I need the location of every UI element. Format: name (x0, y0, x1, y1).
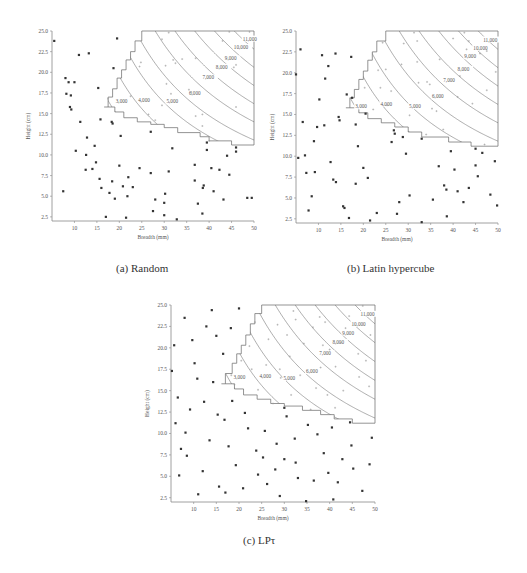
chart-c: 2.55.07.510.012.515.017.520.022.525.0101… (0, 0, 527, 573)
feasible-point (312, 326, 314, 328)
infeasible-point (294, 438, 296, 440)
infeasible-point (212, 381, 214, 383)
infeasible-point (368, 463, 370, 465)
infeasible-point (286, 415, 288, 417)
x-tick-label: 20 (236, 506, 242, 512)
y-tick-label: 17.5 (157, 366, 167, 372)
x-tick-label: 15 (214, 506, 220, 512)
contour-label: 3,000 (234, 374, 246, 380)
infeasible-point (257, 473, 259, 475)
infeasible-point (173, 344, 175, 346)
infeasible-point (247, 427, 249, 429)
x-tick-label: 25 (259, 506, 265, 512)
infeasible-point (313, 479, 315, 481)
contour-label: 4,000 (259, 373, 271, 379)
caption-c: (c) LPτ (243, 534, 275, 546)
x-tick-label: 50 (372, 506, 378, 512)
infeasible-point (227, 445, 229, 447)
x-tick-label: 10 (191, 506, 197, 512)
infeasible-point (332, 498, 334, 500)
y-tick-label: 20.0 (157, 345, 167, 351)
infeasible-point (349, 421, 351, 423)
y-tick-label: 25.0 (157, 302, 167, 308)
infeasible-point (307, 424, 309, 426)
y-tick-label: 7.5 (160, 452, 167, 458)
feasible-point (322, 344, 324, 346)
contour-label: 9,000 (342, 330, 354, 336)
feasible-point (358, 376, 360, 378)
y-tick-label: 2.5 (160, 495, 167, 501)
infeasible-point (331, 426, 333, 428)
feasible-point (251, 368, 253, 370)
feasible-point (267, 338, 269, 340)
feasible-point (357, 353, 359, 355)
infeasible-point (327, 472, 329, 474)
y-tick-label: 10.0 (157, 430, 167, 436)
feasible-point (272, 403, 274, 405)
feasible-point (265, 364, 267, 366)
infeasible-point (350, 444, 352, 446)
infeasible-point (208, 439, 210, 441)
feasible-point (326, 394, 328, 396)
feasible-point (257, 389, 259, 391)
contour-label: 10,000 (351, 321, 366, 327)
feasible-point (369, 334, 371, 336)
infeasible-point (230, 327, 232, 329)
infeasible-point (218, 485, 220, 487)
infeasible-point (224, 491, 226, 493)
infeasible-point (242, 487, 244, 489)
infeasible-point (184, 317, 186, 319)
feasible-point (348, 315, 350, 317)
x-tick-label: 45 (350, 506, 356, 512)
chart-c-svg: 2.55.07.510.012.515.017.520.022.525.0101… (0, 0, 527, 573)
feasible-point (254, 321, 256, 323)
contour-label: 5,000 (283, 375, 295, 381)
infeasible-point (295, 462, 297, 464)
feasible-point (335, 366, 337, 368)
feasible-point (230, 374, 232, 376)
feasible-point (279, 368, 281, 370)
infeasible-point (191, 339, 193, 341)
feasible-point (248, 345, 250, 347)
infeasible-point (255, 450, 257, 452)
infeasible-point (323, 452, 325, 454)
feasible-point (368, 385, 370, 387)
feasible-point (240, 360, 242, 362)
feasible-point (289, 355, 291, 357)
infeasible-point (203, 401, 205, 403)
y-tick-label: 22.5 (157, 323, 167, 329)
feasible-point (334, 407, 336, 409)
contour-label: 11,000 (360, 311, 374, 317)
infeasible-point (244, 412, 246, 414)
infeasible-point (352, 467, 354, 469)
infeasible-point (305, 500, 307, 502)
infeasible-point (193, 362, 195, 364)
infeasible-point (337, 481, 339, 483)
infeasible-point (316, 433, 318, 435)
y-tick-label: 5.0 (160, 473, 167, 479)
infeasible-point (217, 414, 219, 416)
infeasible-point (266, 483, 268, 485)
infeasible-point (264, 430, 266, 432)
infeasible-point (186, 455, 188, 457)
infeasible-point (235, 464, 237, 466)
infeasible-point (197, 493, 199, 495)
feasible-point (280, 377, 282, 379)
feasible-point (292, 310, 294, 312)
feasible-point (324, 321, 326, 323)
infeasible-point (189, 408, 191, 410)
contour-lines (185, 0, 380, 470)
infeasible-point (238, 307, 240, 309)
feasible-point (290, 394, 292, 396)
infeasible-point (196, 378, 198, 380)
infeasible-point (215, 335, 217, 337)
x-tick-label: 35 (304, 506, 310, 512)
infeasible-point (276, 443, 278, 445)
contour-label: 8,000 (332, 339, 344, 345)
y-tick-label: 15.0 (157, 388, 167, 394)
infeasible-point (231, 400, 233, 402)
infeasible-point (178, 474, 180, 476)
x-tick-label: 30 (282, 506, 288, 512)
infeasible-point (361, 490, 363, 492)
feasible-point (315, 387, 317, 389)
